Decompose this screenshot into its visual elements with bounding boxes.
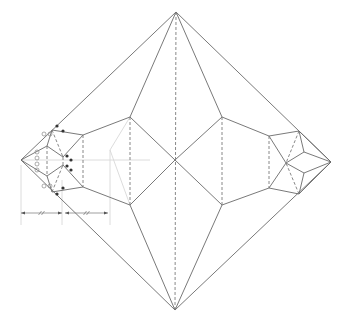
mountain-fold-line: [47, 146, 63, 157]
mountain-fold-line: [130, 117, 175, 160]
mountain-fold-line: [83, 117, 130, 135]
crease-pattern-diagram: [0, 0, 347, 322]
mountain-fold-line: [52, 130, 83, 135]
mountain-fold-line: [299, 131, 304, 152]
mountain-fold-line: [175, 160, 222, 205]
mountain-fold-line: [176, 12, 222, 117]
mountain-fold-line: [175, 205, 222, 310]
black-dot-marker: [69, 158, 72, 161]
arrow-right-icon: [58, 212, 62, 215]
mountain-fold-line: [63, 165, 83, 187]
mountain-fold-line: [269, 136, 286, 163]
mountain-fold-line: [269, 163, 286, 188]
mountain-folds: [21, 12, 331, 310]
guide-line: [110, 117, 130, 150]
valley-fold-line: [286, 163, 299, 194]
mountain-fold-line: [299, 173, 304, 194]
mountain-fold-line: [21, 160, 47, 176]
mountain-fold-line: [299, 131, 331, 162]
black-dot-marker: [61, 129, 64, 132]
arrow-left-icon: [21, 212, 25, 215]
black-dot-marker: [65, 154, 68, 157]
mountain-fold-line: [304, 162, 331, 173]
mountain-fold-line: [269, 188, 299, 194]
mountain-fold-line: [299, 162, 331, 194]
mountain-fold-line: [222, 188, 269, 205]
black-dot-marker: [69, 168, 72, 171]
dimension-markers: [21, 211, 108, 215]
open-circle-marker: [35, 162, 39, 166]
guide-lines: [21, 117, 150, 225]
mountain-fold-line: [63, 135, 83, 157]
open-circle-marker: [42, 132, 46, 136]
valley-fold-line: [286, 131, 299, 163]
open-circle-marker: [35, 156, 39, 160]
open-circle-marker: [42, 184, 46, 188]
mountain-fold-line: [175, 117, 222, 160]
mountain-fold-line: [130, 160, 175, 205]
mountain-fold-line: [52, 187, 83, 192]
mountain-fold-line: [83, 187, 130, 205]
black-dot-marker: [55, 192, 58, 195]
mountain-fold-line: [130, 205, 175, 310]
black-dot-marker: [55, 124, 58, 127]
mountain-fold-line: [130, 12, 176, 117]
guide-line: [110, 150, 130, 205]
mountain-fold-line: [304, 152, 331, 162]
mountain-fold-line: [269, 131, 299, 136]
black-dot-marker: [65, 164, 68, 167]
mountain-fold-line: [286, 163, 304, 173]
mountain-fold-line: [222, 117, 269, 136]
valley-folds: [47, 12, 299, 310]
arrow-right-icon: [104, 212, 108, 215]
mountain-fold-line: [286, 152, 304, 163]
black-dot-marker: [61, 186, 64, 189]
arrow-left-icon: [65, 212, 69, 215]
mountain-fold-line: [47, 165, 63, 176]
